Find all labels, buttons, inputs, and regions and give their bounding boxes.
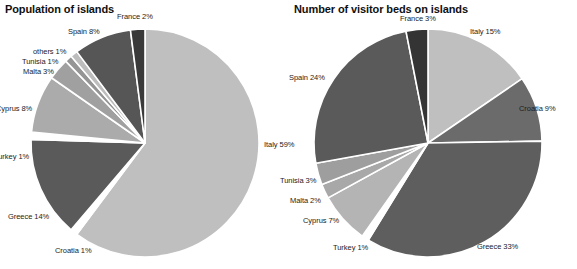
pie-label-malta-population: Malta 3% bbox=[23, 67, 54, 76]
pie-label-greece-population: Greece 14% bbox=[8, 212, 49, 221]
pie-label-croatia-visitor-beds: Croatia 9% bbox=[519, 104, 556, 113]
pie-label-cyprus-visitor-beds: Cyprus 7% bbox=[303, 216, 339, 225]
pie-label-france-visitor-beds: France 3% bbox=[400, 14, 436, 23]
pie-label-turkey-population: Turkey 1% bbox=[0, 152, 29, 161]
pie-label-malta-visitor-beds: Malta 2% bbox=[290, 196, 321, 205]
pie-label-italy-population: Italy 59% bbox=[264, 140, 294, 149]
pie-label-others-population: others 1% bbox=[33, 47, 66, 56]
pie-label-cyprus-population: Cyprus 8% bbox=[0, 104, 32, 113]
pie-label-spain-visitor-beds: Spain 24% bbox=[289, 73, 325, 82]
pie-label-italy-visitor-beds: Italy 15% bbox=[470, 27, 500, 36]
pie-label-greece-visitor-beds: Greece 33% bbox=[477, 242, 518, 251]
page-title-visitor-beds: Number of visitor beds on islands bbox=[294, 3, 468, 15]
pie-label-croatia-population: Croatia 1% bbox=[55, 246, 92, 255]
pie-label-tunisia-visitor-beds: Tunisia 3% bbox=[280, 176, 316, 185]
chart-panel-visitor-beds: Number of visitor beds on islands bbox=[288, 0, 577, 269]
pie-label-france-population: France 2% bbox=[117, 12, 153, 21]
pie-label-spain-population: Spain 8% bbox=[68, 27, 100, 36]
pie-chart-population bbox=[0, 0, 290, 269]
pie-label-tunisia-population: Tunisia 1% bbox=[22, 57, 58, 66]
pie-label-turkey-visitor-beds: Turkey 1% bbox=[333, 243, 368, 252]
chart-panel-population: Population of islands bbox=[0, 0, 290, 269]
